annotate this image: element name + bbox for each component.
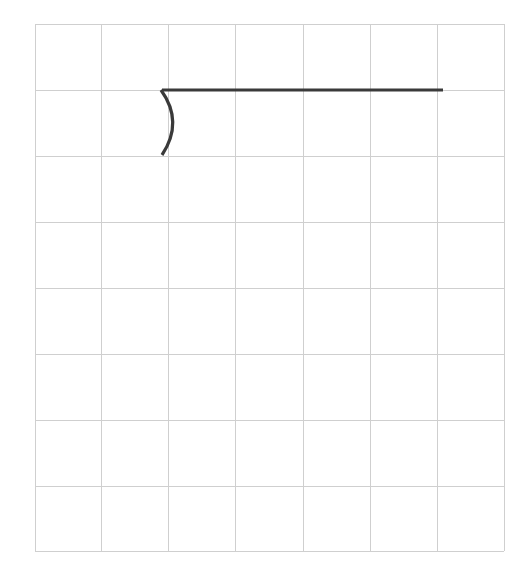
drawn-shapes (0, 0, 528, 568)
arc-curve (161, 90, 173, 155)
drawing-canvas (0, 0, 528, 568)
